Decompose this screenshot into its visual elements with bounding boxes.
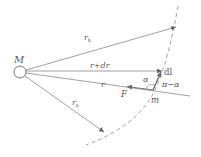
dl-arrow: [153, 72, 161, 90]
small-mass-m-label: m: [151, 95, 159, 105]
mass-M-label: M: [13, 54, 25, 65]
mass-M-circle: [14, 66, 26, 78]
force-F-arrow: [127, 87, 153, 91]
diagram-canvas: M rb r+dr r F dl α π−α m ra: [0, 0, 201, 157]
r-a-vector: [25, 76, 104, 132]
alpha-label: α: [143, 75, 149, 84]
r-plus-dr-label: r+dr: [90, 61, 111, 70]
force-F-label: F: [120, 89, 128, 99]
dl-label: dl: [164, 67, 172, 77]
orbit-work-diagram: M rb r+dr r F dl α π−α m ra: [0, 0, 201, 157]
r-a-label: ra: [72, 98, 79, 108]
pi-minus-alpha-label: π−α: [161, 80, 180, 89]
r-b-label: rb: [84, 33, 91, 43]
